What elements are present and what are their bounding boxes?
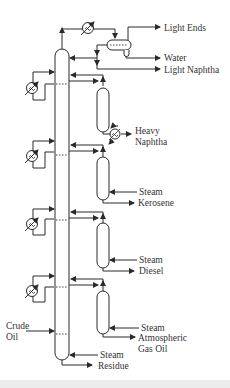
label-water: Water [164,53,187,63]
pumparound-4 [25,276,54,302]
label-steam-diesel: Steam [139,255,163,265]
footer-band [0,380,230,388]
overhead-system [62,22,160,69]
overhead-condenser-icon [81,22,94,35]
label-steam-ago: Steam [141,323,165,333]
label-ago-line1: Atmospheric [138,333,187,343]
distillation-diagram: Light Ends Water Light Naphtha Heavy [0,0,230,388]
pumparound-exchanger-icon [25,82,38,95]
label-light-naphtha: Light Naphtha [164,65,220,75]
main-column [55,49,69,360]
label-kerosene: Kerosene [138,198,174,208]
heavy-naphtha-exchanger-icon [109,129,120,140]
label-crude-line2: Oil [6,332,19,342]
label-steam-kerosene: Steam [139,187,163,197]
reflux-drum [107,40,131,57]
label-residue: Residue [98,361,129,371]
label-crude-line1: Crude [6,321,29,331]
stripper-heavy-naphtha [69,75,131,144]
pumparound-1 [25,72,54,100]
label-heavy-naphtha-line1: Heavy [135,126,160,136]
label-heavy-naphtha-line2: Naphtha [135,137,168,147]
pumparound-exchanger-icon [25,218,38,231]
label-light-ends: Light Ends [164,23,206,33]
pumparound-2 [25,141,54,168]
stripper-ago [69,279,139,337]
pumparound-exchanger-icon [25,285,38,298]
pumparound-3 [25,209,54,235]
label-diesel: Diesel [139,266,164,276]
pumparound-exchanger-icon [25,150,38,163]
stripper-diesel [69,212,137,271]
label-ago-line2: Gas Oil [138,344,168,354]
stripper-kerosene [69,145,137,203]
label-steam-residue: Steam [100,350,124,360]
